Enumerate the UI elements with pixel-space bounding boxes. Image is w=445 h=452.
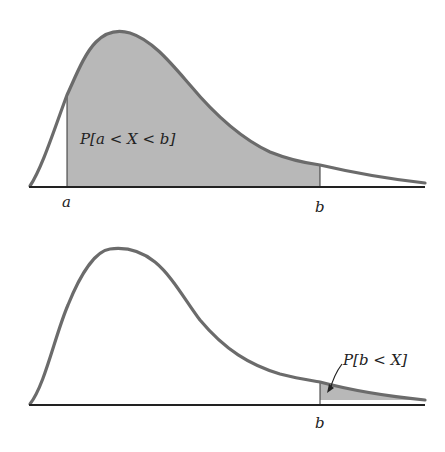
- shaded-area-a-to-b: [67, 31, 320, 187]
- tick-label-a: a: [62, 193, 71, 211]
- tick-label-b: b: [315, 198, 325, 216]
- annotation-p-a-x-b: P[a < X < b]: [79, 130, 175, 148]
- density-curve: [30, 248, 425, 404]
- figure: P[a < X < b] a b P[b < X] b: [0, 0, 445, 452]
- tick-label-b: b: [315, 414, 325, 432]
- bottom-panel: P[b < X] b: [29, 248, 425, 432]
- annotation-p-b-x: P[b < X]: [342, 351, 407, 369]
- top-panel: P[a < X < b] a b: [29, 31, 425, 216]
